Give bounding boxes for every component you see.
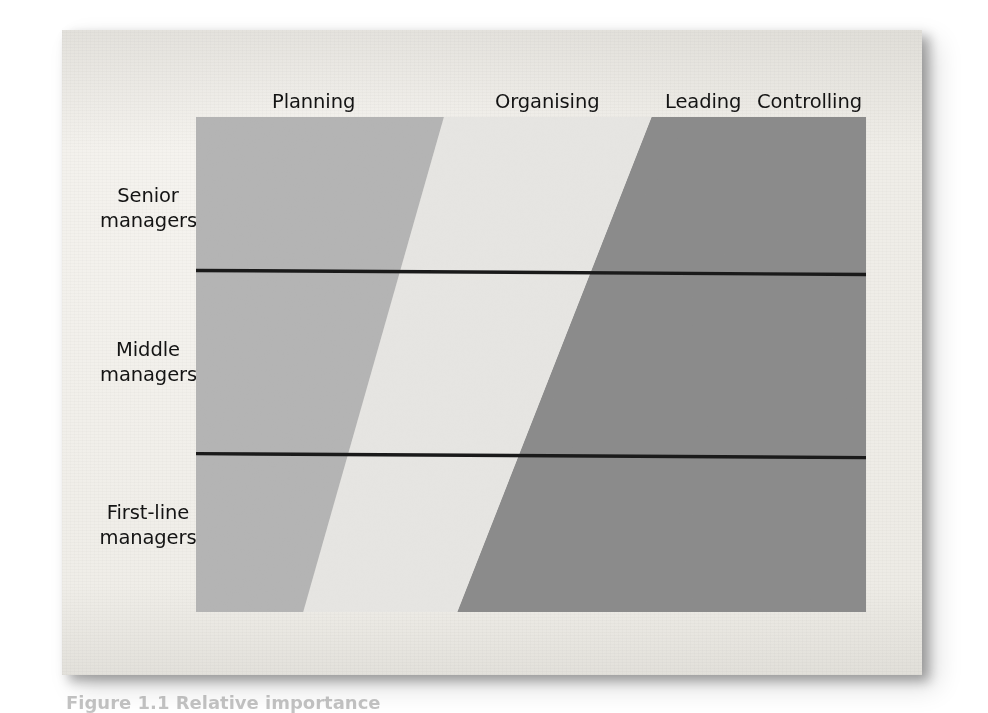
column-header-controlling: Controlling — [757, 90, 862, 113]
row-label-first-line-managers-line1: First-line — [96, 500, 200, 525]
row-label-senior-managers: Senior managers — [100, 183, 196, 233]
column-header-organising: Organising — [495, 90, 599, 113]
row-label-middle-managers-line1: Middle — [100, 337, 196, 362]
row-label-first-line-managers: First-line managers — [96, 500, 200, 550]
management-functions-band-chart — [196, 117, 866, 612]
figure-caption: Figure 1.1 Relative importance — [66, 692, 586, 713]
column-header-leading: Leading — [665, 90, 741, 113]
row-label-first-line-managers-line2: managers — [96, 525, 200, 550]
row-label-middle-managers: Middle managers — [100, 337, 196, 387]
row-label-middle-managers-line2: managers — [100, 362, 196, 387]
chart-svg — [196, 117, 866, 612]
chart-grain-overlay-2 — [196, 117, 866, 612]
column-header-planning: Planning — [272, 90, 355, 113]
row-label-senior-managers-line2: managers — [100, 208, 196, 233]
row-label-senior-managers-line1: Senior — [100, 183, 196, 208]
